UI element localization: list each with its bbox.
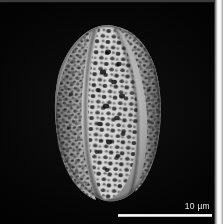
- sem-figure: 10 µm: [0, 0, 223, 224]
- figure-right-border: [214, 0, 223, 224]
- pollen-grain: [51, 24, 163, 203]
- micrograph-field: 10 µm: [0, 3, 214, 224]
- scalebar-label: 10 µm: [165, 201, 210, 211]
- scalebar-line: [118, 214, 212, 217]
- figure-top-border-inner: [0, 2, 223, 3]
